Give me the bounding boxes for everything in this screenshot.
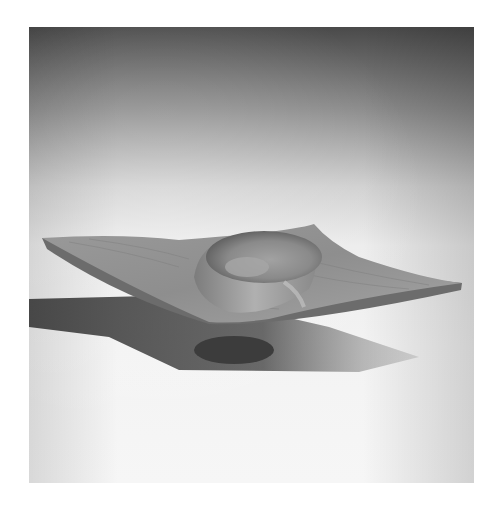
bowl-foot (194, 336, 274, 364)
product-photo (29, 27, 474, 483)
bowl-illustration (29, 27, 474, 483)
bowl-well (206, 231, 322, 283)
